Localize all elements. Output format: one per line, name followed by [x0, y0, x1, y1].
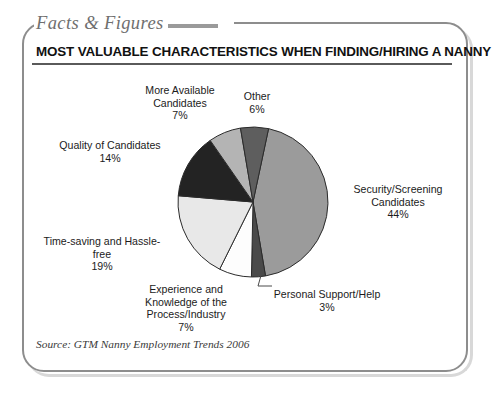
chart-source: Source: GTM Nanny Employment Trends 2006 [36, 338, 249, 350]
panel-tab-label: Facts & Figures [36, 13, 164, 34]
pie-label-time-saving-hassle-free: Time-saving and Hassle- free 19% [36, 235, 168, 273]
facts-and-figures-panel: Facts & Figures MOST VALUABLE CHARACTERI… [0, 0, 492, 396]
pie-label-more-available-candidates: More Available Candidates 7% [128, 84, 232, 122]
pie-label-other: Other 6% [228, 90, 286, 115]
pie-label-experience-knowledge: Experience and Knowledge of the Process/… [128, 283, 244, 333]
panel-tab-rule [168, 24, 218, 28]
pie-label-security-screening: Security/Screening Candidates 44% [336, 183, 460, 221]
pie-label-quality-of-candidates: Quality of Candidates 14% [48, 139, 172, 164]
pie-label-personal-support-help: Personal Support/Help 3% [264, 288, 390, 313]
pie-slice-group [178, 127, 328, 277]
